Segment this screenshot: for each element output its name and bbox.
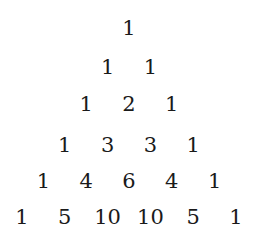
triangle-value: 1: [229, 202, 242, 232]
triangle-value: 1: [144, 52, 157, 82]
triangle-value: 1: [208, 166, 221, 196]
triangle-value: 5: [58, 202, 71, 232]
triangle-row-6: 15101051: [0, 202, 253, 232]
triangle-value: 1: [58, 130, 71, 160]
triangle-row-2: 11: [0, 52, 253, 82]
triangle-value: 1: [37, 166, 50, 196]
triangle-value: 1: [165, 89, 178, 119]
triangle-value: 5: [187, 202, 200, 232]
triangle-value: 10: [94, 202, 121, 232]
triangle-value: 3: [144, 130, 157, 160]
triangle-value: 4: [80, 166, 93, 196]
triangle-value: 1: [80, 89, 93, 119]
triangle-value: 1: [15, 202, 28, 232]
triangle-row-4: 1331: [0, 130, 253, 160]
triangle-row-3: 121: [0, 89, 253, 119]
triangle-value: 1: [122, 13, 135, 43]
triangle-value: 4: [165, 166, 178, 196]
triangle-value: 2: [122, 89, 135, 119]
triangle-value: 6: [122, 166, 135, 196]
triangle-value: 1: [101, 52, 114, 82]
triangle-value: 3: [101, 130, 114, 160]
triangle-row-5: 14641: [0, 166, 253, 196]
triangle-row-1: 1: [0, 13, 253, 43]
triangle-value: 1: [187, 130, 200, 160]
triangle-value: 10: [137, 202, 164, 232]
